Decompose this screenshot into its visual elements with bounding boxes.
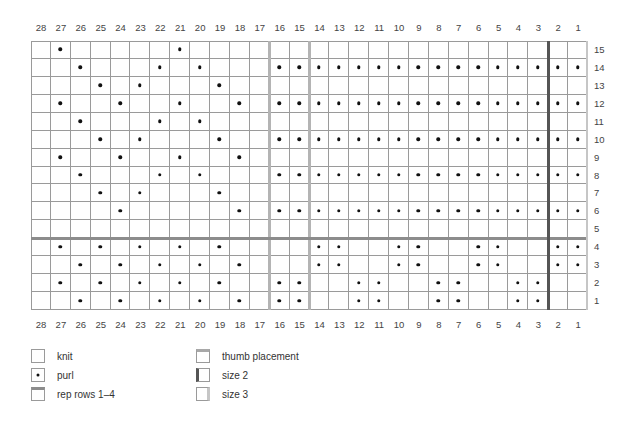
knit-stitch-cell xyxy=(508,184,528,202)
purl-dot-icon xyxy=(516,173,520,177)
knit-stitch-cell xyxy=(270,41,290,59)
knit-stitch-cell xyxy=(51,167,71,185)
purl-stitch-cell xyxy=(548,202,568,220)
purl-dot-icon xyxy=(516,281,520,285)
purl-stitch-cell xyxy=(170,41,190,59)
knit-stitch-cell xyxy=(210,202,230,220)
knit-stitch-cell xyxy=(409,149,429,167)
knit-stitch-cell xyxy=(369,149,389,167)
purl-stitch-cell xyxy=(150,113,170,131)
purl-dot-icon xyxy=(417,209,421,213)
knit-stitch-cell xyxy=(548,41,568,59)
row-label: 7 xyxy=(594,187,610,198)
purl-stitch-cell xyxy=(508,202,528,220)
purl-stitch-cell xyxy=(489,256,509,274)
knit-stitch-cell xyxy=(528,149,548,167)
purl-stitch-cell xyxy=(91,184,111,202)
purl-dot-icon xyxy=(158,66,162,70)
purl-dot-icon xyxy=(417,263,421,267)
purl-stitch-cell xyxy=(469,238,489,256)
purl-stitch-cell xyxy=(210,238,230,256)
purl-dot-icon xyxy=(556,245,560,249)
knit-stitch-cell xyxy=(369,184,389,202)
purl-dot-icon xyxy=(277,299,281,303)
purl-dot-icon xyxy=(536,209,540,213)
purl-dot-icon xyxy=(456,299,460,303)
purl-stitch-cell xyxy=(508,95,528,113)
purl-dot-icon xyxy=(98,191,102,195)
column-label-bottom: 18 xyxy=(230,319,250,330)
purl-dot-icon xyxy=(516,66,520,70)
knit-stitch-cell xyxy=(369,77,389,95)
knit-stitch-cell xyxy=(111,59,131,77)
knit-stitch-cell xyxy=(91,167,111,185)
column-label-top: 4 xyxy=(508,22,528,33)
purl-stitch-cell xyxy=(429,202,449,220)
knit-stitch-cell xyxy=(568,184,588,202)
purl-stitch-cell xyxy=(230,292,250,310)
rep-rows-line-icon xyxy=(31,387,45,401)
knit-stitch-cell xyxy=(51,59,71,77)
purl-dot-icon xyxy=(98,137,102,141)
purl-dot-icon xyxy=(317,245,321,249)
knit-stitch-cell xyxy=(230,184,250,202)
knit-stitch-cell xyxy=(489,292,509,310)
purl-dot-icon xyxy=(496,173,500,177)
knit-stitch-cell xyxy=(230,41,250,59)
knit-stitch-cell xyxy=(111,131,131,149)
knit-stitch-cell xyxy=(31,202,51,220)
purl-dot-icon xyxy=(476,102,480,106)
knit-stitch-cell xyxy=(190,274,210,292)
knit-stitch-cell xyxy=(409,41,429,59)
purl-dot-icon xyxy=(576,173,580,177)
knit-stitch-cell xyxy=(270,220,290,238)
size-3-line xyxy=(586,41,588,310)
knit-stitch-cell xyxy=(349,238,369,256)
column-label-bottom: 7 xyxy=(449,319,469,330)
purl-dot-icon xyxy=(138,137,142,141)
purl-stitch-cell xyxy=(170,149,190,167)
column-label-top: 5 xyxy=(489,22,509,33)
knit-stitch-cell xyxy=(51,220,71,238)
purl-stitch-cell xyxy=(508,59,528,77)
purl-dot-icon xyxy=(297,281,301,285)
purl-dot-icon xyxy=(456,137,460,141)
purl-dot-icon xyxy=(158,173,162,177)
column-label-top: 26 xyxy=(71,22,91,33)
knit-stitch-cell xyxy=(150,238,170,256)
purl-stitch-cell xyxy=(130,184,150,202)
knit-stitch-cell xyxy=(329,220,349,238)
knit-stitch-cell xyxy=(91,292,111,310)
purl-stitch-cell xyxy=(469,95,489,113)
knit-stitch-cell xyxy=(250,238,270,256)
purl-dot-icon xyxy=(476,245,480,249)
knit-stitch-cell xyxy=(150,202,170,220)
knit-stitch-cell xyxy=(508,113,528,131)
knit-stitch-cell xyxy=(290,184,310,202)
knit-stitch-cell xyxy=(290,77,310,95)
column-label-top: 15 xyxy=(290,22,310,33)
purl-stitch-cell xyxy=(508,131,528,149)
knit-stitch-cell xyxy=(250,113,270,131)
knit-stitch-cell xyxy=(250,59,270,77)
column-label-top: 27 xyxy=(51,22,71,33)
purl-dot-icon xyxy=(238,299,242,303)
knit-stitch-cell xyxy=(190,149,210,167)
knit-stitch-cell xyxy=(91,113,111,131)
knit-stitch-cell xyxy=(290,113,310,131)
knit-stitch-cell xyxy=(290,220,310,238)
knit-stitch-cell xyxy=(508,149,528,167)
knit-stitch-cell xyxy=(310,184,330,202)
knit-stitch-cell xyxy=(250,167,270,185)
row-label: 10 xyxy=(594,134,610,145)
knit-stitch-cell xyxy=(349,256,369,274)
purl-stitch-cell xyxy=(548,238,568,256)
knit-stitch-cell xyxy=(429,184,449,202)
knit-stitch-cell xyxy=(111,77,131,95)
knit-stitch-cell xyxy=(489,77,509,95)
size-2-line xyxy=(547,41,550,310)
knit-stitch-cell xyxy=(130,292,150,310)
knit-stitch-cell xyxy=(270,77,290,95)
purl-stitch-cell xyxy=(528,95,548,113)
purl-dot-icon xyxy=(536,281,540,285)
